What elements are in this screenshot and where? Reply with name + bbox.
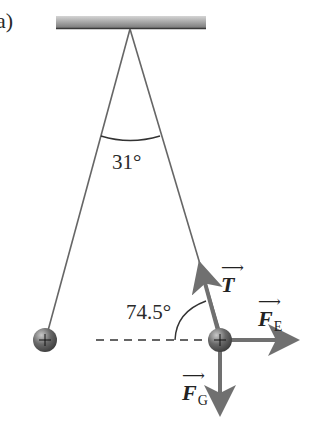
- ceiling-support: [56, 16, 206, 29]
- angle-label-31: 31°: [112, 150, 141, 175]
- vector-arrow-icon: ⟶: [258, 292, 279, 311]
- left-charged-sphere: [33, 328, 57, 352]
- left-string: [46, 29, 130, 338]
- angle-arc-31: [101, 136, 160, 141]
- vector-arrow-icon: ⟶: [182, 366, 203, 385]
- angle-arc-74: [175, 301, 206, 340]
- tension-vector: [202, 272, 220, 338]
- gravity-force-label: ⟶ FG: [182, 380, 208, 409]
- electric-force-label: ⟶ FE: [258, 306, 282, 335]
- right-charged-sphere: [208, 328, 232, 352]
- angle-label-74: 74.5°: [126, 300, 171, 325]
- vector-arrow-icon: ⟶: [221, 258, 242, 277]
- part-label: a): [0, 8, 13, 34]
- tension-label: ⟶ T: [221, 272, 234, 298]
- diagram-graphics: [0, 0, 310, 434]
